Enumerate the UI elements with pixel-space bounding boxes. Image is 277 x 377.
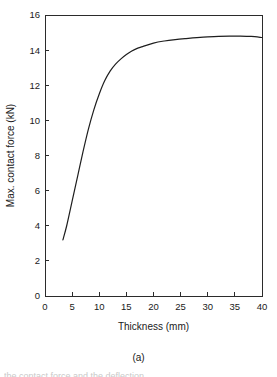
subfigure-label: (a)	[0, 352, 277, 363]
x-tick-label: 0	[42, 301, 47, 312]
plot-frame	[45, 15, 262, 296]
caption-partial-text: the contact force and the deflection	[4, 371, 273, 377]
y-axis-title: Max. contact force (kN)	[5, 104, 16, 207]
y-tick-label: 8	[35, 150, 40, 161]
y-tick-label: 6	[35, 185, 40, 196]
x-tick-label: 20	[148, 301, 159, 312]
y-tick-label: 16	[29, 9, 40, 20]
x-tick-label: 25	[175, 301, 186, 312]
x-tick-label: 35	[230, 301, 241, 312]
x-tick-label: 30	[202, 301, 213, 312]
x-tick-label: 15	[121, 301, 132, 312]
y-tick-label: 2	[35, 255, 40, 266]
y-tick-label: 12	[29, 80, 40, 91]
x-tick-label: 10	[94, 301, 105, 312]
figure-container: 02468101214160510152025303540Thickness (…	[0, 0, 277, 377]
y-tick-label: 14	[29, 45, 40, 56]
x-tick-label: 5	[69, 301, 74, 312]
x-tick-label: 40	[257, 301, 268, 312]
y-tick-label: 0	[35, 290, 40, 301]
x-axis-title: Thickness (mm)	[118, 321, 189, 332]
y-tick-label: 10	[29, 115, 40, 126]
data-series-line	[63, 36, 262, 240]
y-tick-label: 4	[35, 220, 40, 231]
line-chart: 02468101214160510152025303540Thickness (…	[0, 0, 277, 340]
